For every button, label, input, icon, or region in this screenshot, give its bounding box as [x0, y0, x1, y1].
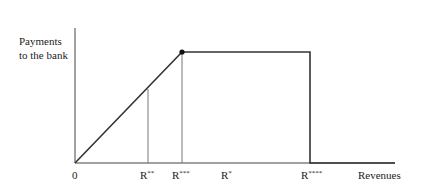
kink-point	[179, 49, 184, 54]
payments-diagram: 0 R** R*** R* R**** Revenues	[0, 0, 422, 187]
tick-r-star: R*	[221, 169, 232, 181]
tick-r-quad-star: R****	[301, 169, 323, 181]
tick-r-double-star: R**	[140, 169, 155, 181]
x-axis-label: Revenues	[358, 169, 401, 181]
origin-label: 0	[72, 169, 78, 181]
tick-r-triple-star: R***	[172, 169, 190, 181]
payment-curve	[75, 52, 395, 163]
